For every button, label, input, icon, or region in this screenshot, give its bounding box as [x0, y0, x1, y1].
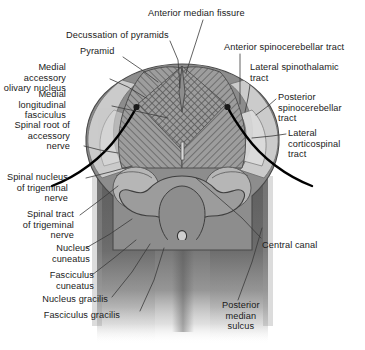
label-decussation-of-pyramids: Decussation of pyramids [66, 30, 169, 41]
label-spinal-root-of-accessory-nerve: Spinal root of accessory nerve [0, 120, 72, 152]
label-posterior-spinocerebellar-tract: Posterior spinocerebellar tract [278, 92, 342, 124]
label-medial-longitudinal-fasciculus: Medial longitudinal fasciculus [0, 89, 68, 121]
label-central-canal: Central canal [262, 240, 317, 251]
label-fasciculus-cuneatus: Fasciculus cuneatus [0, 270, 96, 291]
label-lateral-corticospinal-tract: Lateral corticospinal tract [288, 128, 340, 160]
label-anterior-spinocerebellar-tract: Anterior spinocerebellar tract [224, 42, 344, 53]
label-spinal-tract-of-trigeminal-nerve: Spinal tract of trigeminal nerve [0, 209, 76, 241]
pyramidal-decussation [119, 66, 246, 168]
label-lateral-spinothalamic-tract: Lateral spinothalamic tract [250, 62, 339, 83]
label-anterior-median-fissure: Anterior median fissure [148, 8, 245, 19]
label-nucleus-cuneatus: Nucleus cuneatus [0, 243, 92, 264]
label-posterior-median-sulcus: Posterior median sulcus [222, 300, 260, 332]
anatomical-figure: Anterior median fissureDecussation of py… [0, 0, 365, 350]
label-nucleus-gracilis: Nucleus gracilis [0, 294, 110, 305]
label-spinal-nucleus-of-trigeminal-nerve: Spinal nucleus of trigeminal nerve [0, 172, 70, 204]
label-pyramid: Pyramid [80, 46, 114, 57]
label-fasciculus-gracilis: Fasciculus gracilis [0, 310, 122, 321]
